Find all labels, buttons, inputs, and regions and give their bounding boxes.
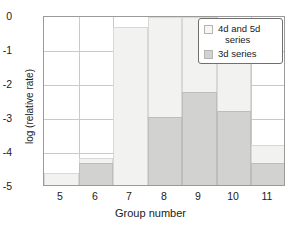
bar-segment-8-3d <box>148 117 182 185</box>
y-tick-label-m4: -4 <box>0 146 12 158</box>
x-tick-label-5: 5 <box>45 190 75 202</box>
x-tick-label-11: 11 <box>252 190 282 202</box>
bar-segment-5-4d5d <box>44 173 79 185</box>
bar-segment-7-4d5d <box>113 27 148 185</box>
legend-label-4d5d-line1: 4d and 5d <box>218 23 260 34</box>
bar-group-8 <box>148 17 182 185</box>
y-tick-label-m5: -5 <box>0 180 12 192</box>
y-tick-label-m2: -2 <box>0 78 12 90</box>
y-tick-label-0: 0 <box>0 10 12 22</box>
bar-segment-9-3d <box>182 92 217 185</box>
legend-entry-3d: 3d series <box>204 48 278 59</box>
legend-label-4d5d: 4d and 5dseries <box>218 23 260 45</box>
chart-figure: log (relative rate) 0 -1 -2 -3 -4 -5 <box>0 0 301 235</box>
x-tick-label-7: 7 <box>114 190 144 202</box>
bar-group-6 <box>79 17 113 185</box>
chart-legend: 4d and 5dseries 3d series <box>198 18 283 64</box>
bar-segment-6-3d <box>79 163 113 185</box>
y-tick-label-m3: -3 <box>0 112 12 124</box>
bar-segment-11-3d <box>251 163 285 185</box>
legend-swatch-4d5d-icon <box>204 25 213 34</box>
y-axis-label: log (relative rate) <box>24 32 35 182</box>
legend-entry-4d5d: 4d and 5dseries <box>204 23 278 45</box>
x-tick-label-8: 8 <box>149 190 179 202</box>
y-tick-label-m1: -1 <box>0 44 12 56</box>
legend-swatch-3d-icon <box>204 50 213 59</box>
x-tick-label-6: 6 <box>80 190 110 202</box>
legend-label-3d: 3d series <box>218 48 257 59</box>
x-axis-label: Group number <box>0 207 301 219</box>
legend-label-4d5d-line2: series <box>218 34 260 45</box>
bar-segment-10-3d <box>217 111 251 186</box>
bar-group-7 <box>113 17 148 185</box>
bar-group-5 <box>44 17 79 185</box>
x-tick-label-10: 10 <box>218 190 248 202</box>
x-tick-label-9: 9 <box>183 190 213 202</box>
